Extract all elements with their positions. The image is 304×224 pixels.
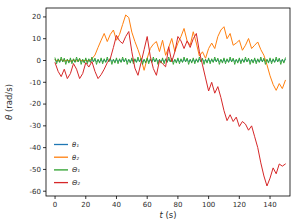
theta-line-chart: 02040608010012014020100-10-20-30-40-50-6…	[0, 0, 304, 224]
legend-label: Θ₂	[72, 179, 80, 187]
y-tick-label: -20	[30, 100, 41, 108]
y-tick-label: -30	[30, 122, 41, 130]
x-tick-label: 80	[173, 201, 182, 209]
x-tick-label: 100	[202, 201, 215, 209]
x-tick-label: 120	[233, 201, 246, 209]
y-tick-label: 0	[37, 57, 41, 65]
figure: 02040608010012014020100-10-20-30-40-50-6…	[0, 0, 304, 224]
x-tick-label: 40	[112, 201, 121, 209]
x-tick-label: 20	[81, 201, 90, 209]
y-tick-label: 10	[32, 35, 41, 43]
y-tick-label: -10	[30, 79, 41, 87]
x-tick-label: 140	[263, 201, 276, 209]
y-tick-label: -40	[30, 144, 41, 152]
legend-label: θ₂	[72, 154, 79, 162]
y-tick-label: -60	[30, 188, 41, 196]
x-axis-label: t (s)	[159, 210, 176, 220]
x-tick-label: 60	[143, 201, 152, 209]
y-tick-label: 20	[32, 13, 41, 21]
x-tick-label: 0	[53, 201, 57, 209]
legend-label: Θ₁	[72, 166, 80, 174]
y-axis-label: θ (rad/s)	[4, 84, 14, 120]
legend-label: θ₁	[72, 141, 79, 149]
y-tick-label: -50	[30, 166, 41, 174]
